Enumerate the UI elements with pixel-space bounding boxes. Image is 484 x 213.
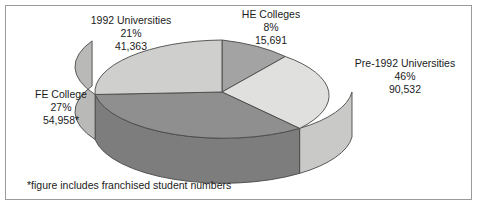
pie-label-pre1992-universities-percent: 46%	[332, 70, 478, 83]
pie-label-pre1992-universities-value: 90,532	[332, 83, 478, 96]
pie-label-he-colleges: HE Colleges 8% 15,691	[212, 8, 330, 46]
pie-label-1992-universities-name: 1992 Universities	[70, 14, 192, 27]
pie-label-1992-universities: 1992 Universities 21% 41,363	[70, 14, 192, 52]
pie-label-fe-college-name: FE College	[8, 88, 114, 101]
pie-label-he-colleges-value: 15,691	[212, 34, 330, 47]
pie-label-pre1992-universities-name: Pre-1992 Universities	[332, 57, 478, 70]
chart-footnote: *figure includes franchised student numb…	[27, 179, 231, 191]
pie-label-fe-college-value: 54,958*	[8, 114, 114, 127]
pie-label-he-colleges-name: HE Colleges	[212, 8, 330, 21]
pie-label-pre1992-universities: Pre-1992 Universities 46% 90,532	[332, 57, 478, 95]
pie-label-fe-college-percent: 27%	[8, 101, 114, 114]
pie-label-1992-universities-percent: 21%	[70, 27, 192, 40]
pie-label-he-colleges-percent: 8%	[212, 21, 330, 34]
pie-label-fe-college: FE College 27% 54,958*	[8, 88, 114, 126]
pie-label-1992-universities-value: 41,363	[70, 40, 192, 53]
